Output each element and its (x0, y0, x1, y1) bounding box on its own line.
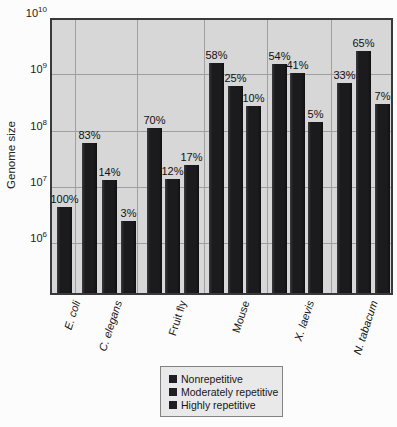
bar-n-tabacum-moderately-repetitive (356, 51, 371, 293)
bar-e-coli-nonrepetitive (57, 207, 72, 293)
bar-percent-label: 3% (121, 207, 137, 219)
legend-item-1: Moderately repetitive (169, 385, 278, 398)
bar-percent-label: 17% (180, 151, 202, 163)
bar-x-laevis-moderately-repetitive (290, 73, 305, 293)
legend-item-0: Nonrepetitive (169, 372, 278, 385)
genome-size-figure: Genome size 1010109108107106 100%83%14%3… (0, 0, 397, 427)
y-tick-1e8: 108 (30, 119, 47, 133)
bar-percent-label: 70% (143, 114, 165, 126)
v-gridline-0 (75, 20, 76, 293)
y-tick-1e7: 107 (30, 175, 47, 189)
bar-c-elegans-moderately-repetitive (102, 180, 117, 293)
bar-percent-label: 14% (98, 166, 120, 178)
bar-percent-label: 58% (205, 49, 227, 61)
bar-n-tabacum-highly-repetitive (375, 104, 390, 293)
x-category-label-c-elegans: C. elegans (97, 299, 125, 353)
bar-mouse-highly-repetitive (246, 106, 261, 293)
bar-percent-label: 5% (308, 108, 324, 120)
legend-square-icon (169, 375, 177, 383)
bar-n-tabacum-nonrepetitive (337, 83, 352, 293)
y-tick-1e6: 106 (30, 231, 47, 245)
plot-area: 100%83%14%3%70%12%17%58%25%10%54%41%5%33… (50, 18, 393, 295)
bar-percent-label: 7% (375, 90, 391, 102)
y-tick-1e10: 1010 (26, 6, 47, 20)
bar-percent-label: 12% (161, 165, 183, 177)
bar-percent-label: 10% (242, 92, 264, 104)
bar-mouse-moderately-repetitive (228, 86, 243, 293)
x-category-label-fruit-fly: Fruit fly (166, 299, 189, 337)
legend-label: Moderately repetitive (181, 386, 278, 398)
legend-label: Nonrepetitive (181, 373, 243, 385)
v-gridline-2 (204, 20, 205, 293)
y-axis-title: Genome size (3, 80, 19, 230)
v-gridline-1 (137, 20, 138, 293)
legend-item-2: Highly repetitive (169, 398, 278, 411)
bar-c-elegans-highly-repetitive (121, 221, 136, 293)
v-gridline-4 (331, 20, 332, 293)
bar-c-elegans-nonrepetitive (82, 143, 97, 293)
legend-square-icon (169, 388, 177, 396)
bar-fruit-fly-moderately-repetitive (165, 179, 180, 293)
bar-percent-label: 33% (333, 69, 355, 81)
x-category-label-mouse: Mouse (230, 299, 252, 334)
bar-percent-label: 100% (50, 193, 78, 205)
bar-percent-label: 25% (224, 72, 246, 84)
bar-mouse-nonrepetitive (209, 63, 224, 293)
x-category-label-n-tabacum: N. tabacum (351, 299, 380, 356)
bar-percent-label: 65% (352, 37, 374, 49)
x-category-label-x-laevis: X. laevis (292, 299, 316, 342)
bar-percent-label: 41% (286, 59, 308, 71)
bar-x-laevis-nonrepetitive (272, 64, 287, 293)
legend-square-icon (169, 401, 177, 409)
bar-x-laevis-highly-repetitive (308, 122, 323, 293)
x-category-label-e-coli: E. coli (62, 299, 83, 331)
legend: NonrepetitiveModerately repetitiveHighly… (160, 366, 283, 417)
bar-fruit-fly-nonrepetitive (147, 128, 162, 293)
bar-fruit-fly-highly-repetitive (184, 165, 199, 293)
bar-percent-label: 83% (78, 129, 100, 141)
y-tick-1e9: 109 (30, 62, 47, 76)
legend-label: Highly repetitive (181, 399, 256, 411)
